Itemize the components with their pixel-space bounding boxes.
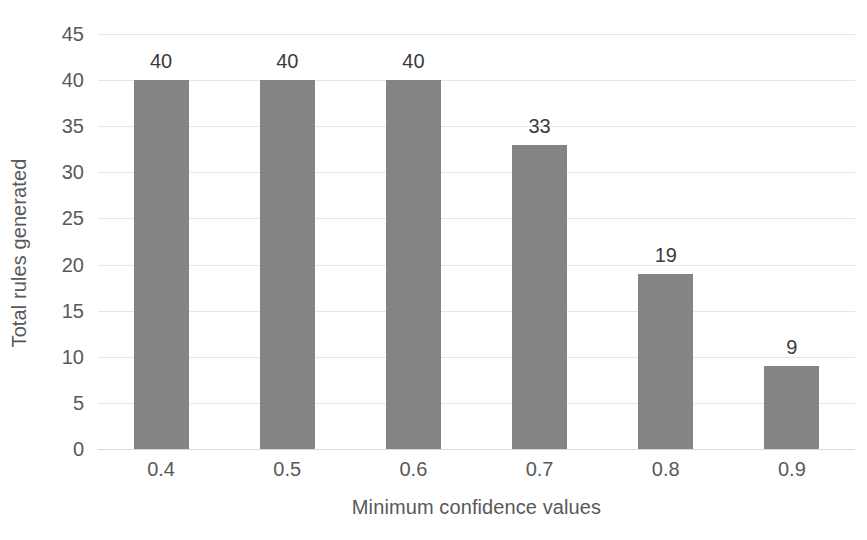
bar-value-label: 19 — [655, 244, 677, 267]
bar — [512, 145, 567, 449]
bar — [134, 80, 189, 449]
bar-value-label: 40 — [150, 50, 172, 73]
x-axis-title: Minimum confidence values — [98, 496, 855, 519]
y-tick-label: 45 — [40, 23, 84, 46]
x-tick-label: 0.8 — [652, 458, 680, 481]
x-tick-label: 0.6 — [400, 458, 428, 481]
gridline-10 — [98, 357, 855, 358]
bar-value-label: 33 — [528, 115, 550, 138]
bar-value-label: 40 — [276, 50, 298, 73]
bar-value-label: 9 — [786, 336, 797, 359]
y-tick-label: 25 — [40, 207, 84, 230]
y-tick-label: 40 — [40, 69, 84, 92]
bar — [386, 80, 441, 449]
y-tick-label: 0 — [40, 438, 84, 461]
gridline-15 — [98, 311, 855, 312]
y-tick-label: 30 — [40, 161, 84, 184]
gridline-0 — [98, 449, 855, 450]
bar — [260, 80, 315, 449]
x-tick-label: 0.5 — [273, 458, 301, 481]
y-tick-label: 5 — [40, 391, 84, 414]
y-tick-label: 35 — [40, 115, 84, 138]
bar — [764, 366, 819, 449]
gridline-40 — [98, 80, 855, 81]
y-axis-title: Total rules generated — [0, 33, 38, 473]
x-tick-label: 0.4 — [147, 458, 175, 481]
bar — [638, 274, 693, 449]
x-tick-label: 0.7 — [526, 458, 554, 481]
plot-area: 40404033199 — [98, 34, 855, 449]
y-axis-tick-labels: 051015202530354045 — [34, 34, 84, 449]
x-tick-label: 0.9 — [778, 458, 806, 481]
gridline-45 — [98, 34, 855, 35]
gridline-35 — [98, 126, 855, 127]
gridline-25 — [98, 218, 855, 219]
bar-value-label: 40 — [402, 50, 424, 73]
y-tick-label: 15 — [40, 299, 84, 322]
gridline-30 — [98, 172, 855, 173]
y-tick-label: 20 — [40, 253, 84, 276]
y-tick-label: 10 — [40, 345, 84, 368]
bar-chart: Total rules generated 051015202530354045… — [0, 0, 867, 540]
gridline-20 — [98, 265, 855, 266]
gridline-5 — [98, 403, 855, 404]
